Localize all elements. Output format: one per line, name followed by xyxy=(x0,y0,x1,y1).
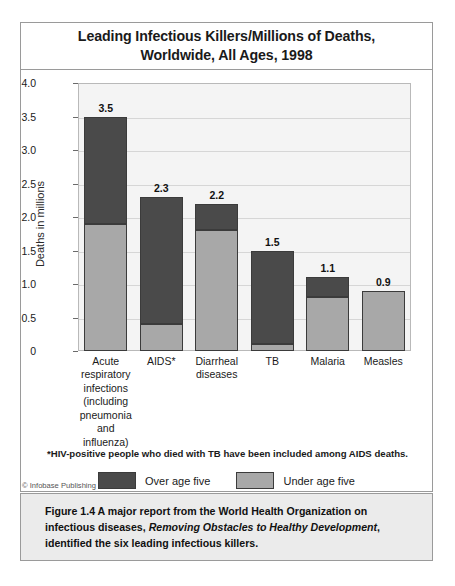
caption-text: Figure 1.4 A major report from the World… xyxy=(45,503,416,551)
y-axis-tick-label: 3.0 xyxy=(0,144,36,156)
y-axis-tick-label: 0 xyxy=(0,345,36,357)
chart-title-line-1: Leading Infectious Killers/Millions of D… xyxy=(78,27,375,46)
bar-segment-under-age-five[interactable] xyxy=(195,230,238,351)
caption-box: Figure 1.4 A major report from the World… xyxy=(20,493,433,561)
legend-item[interactable]: Over age five xyxy=(98,472,210,489)
y-axis-tick-label: 1.0 xyxy=(0,278,36,290)
bar-group[interactable]: 2.3 xyxy=(140,197,183,351)
legend-label: Over age five xyxy=(145,475,210,487)
bar-segment-under-age-five[interactable] xyxy=(140,324,183,351)
x-axis-label-line: TB xyxy=(245,355,301,368)
y-axis-tick-label: 3.5 xyxy=(0,111,36,123)
y-axis-tick-label: 0.5 xyxy=(0,312,36,324)
chart-title: Leading Infectious Killers/Millions of D… xyxy=(70,27,383,64)
bar-value-label: 2.3 xyxy=(154,182,169,194)
y-axis-tick-label: 4.0 xyxy=(0,77,36,89)
bar-segment-under-age-five[interactable] xyxy=(306,297,349,351)
bar-value-label: 1.1 xyxy=(320,262,335,274)
legend-swatch xyxy=(98,472,136,489)
bar-value-label: 1.5 xyxy=(265,236,280,248)
bar-group[interactable]: 0.9 xyxy=(362,291,405,351)
chart-title-line-2: Worldwide, All Ages, 1998 xyxy=(78,46,375,65)
x-axis-label-line: Acute xyxy=(78,355,134,368)
bar-segment-over-age-five[interactable] xyxy=(84,117,127,224)
credit-line: © Infobase Publishing xyxy=(22,481,96,490)
x-axis-category-label: TB xyxy=(245,355,301,368)
bar-group[interactable]: 1.1 xyxy=(306,277,349,351)
bar-segment-under-age-five[interactable] xyxy=(362,291,405,351)
x-axis-category-label: Malaria xyxy=(300,355,356,368)
bar-value-label: 2.2 xyxy=(209,189,224,201)
legend-label: Under age five xyxy=(283,475,355,487)
x-axis-label-line: pneumonia xyxy=(78,409,134,422)
x-axis-label-line: (including xyxy=(78,395,134,408)
bar-group[interactable]: 3.5 xyxy=(84,117,127,352)
x-axis-category-label: Measles xyxy=(356,355,412,368)
y-axis-tick-label: 2.0 xyxy=(0,211,36,223)
bar-group[interactable]: 1.5 xyxy=(251,251,294,352)
chart-footnote: *HIV-positive people who died with TB ha… xyxy=(33,448,422,459)
caption-figure-number: Figure 1.4 xyxy=(45,505,95,517)
caption-book-title: Removing Obstacles to Healthy Developmen… xyxy=(149,521,377,533)
bar-value-label: 3.5 xyxy=(98,102,113,114)
x-axis-label-line: diseases xyxy=(189,368,245,381)
x-axis-label-line: Measles xyxy=(356,355,412,368)
legend-item[interactable]: Under age five xyxy=(236,472,355,489)
bars-layer: 3.52.32.21.51.10.9 xyxy=(78,83,411,351)
x-axis-label-line: Diarrheal xyxy=(189,355,245,368)
x-axis-category-label: Diarrhealdiseases xyxy=(189,355,245,382)
y-axis-tick-label: 1.5 xyxy=(0,245,36,257)
y-axis-tick-label: 2.5 xyxy=(0,178,36,190)
x-axis-label-line: and influenza) xyxy=(78,422,134,449)
bar-segment-under-age-five[interactable] xyxy=(251,344,294,351)
bar-segment-over-age-five[interactable] xyxy=(251,251,294,345)
bar-value-label: 0.9 xyxy=(376,276,391,288)
chart-title-band: Leading Infectious Killers/Millions of D… xyxy=(21,23,432,70)
bar-segment-under-age-five[interactable] xyxy=(84,224,127,351)
legend-swatch xyxy=(236,472,274,489)
x-axis-category-label: AIDS* xyxy=(134,355,190,368)
chart-frame: Leading Infectious Killers/Millions of D… xyxy=(20,22,433,492)
x-axis-label-line: respiratory xyxy=(78,368,134,381)
x-axis-labels: Acuterespiratoryinfections(includingpneu… xyxy=(78,355,411,443)
bar-segment-over-age-five[interactable] xyxy=(195,204,238,231)
y-axis-tick-mark xyxy=(73,351,78,352)
bar-segment-over-age-five[interactable] xyxy=(140,197,183,324)
x-axis-category-label: Acuterespiratoryinfections(includingpneu… xyxy=(78,355,134,449)
chart-body: Deaths in millions 4.03.53.02.52.01.51.0… xyxy=(21,70,432,492)
figure-container: Leading Infectious Killers/Millions of D… xyxy=(0,0,455,586)
x-axis-label-line: infections xyxy=(78,382,134,395)
bar-segment-over-age-five[interactable] xyxy=(306,277,349,297)
x-axis-label-line: Malaria xyxy=(300,355,356,368)
bar-group[interactable]: 2.2 xyxy=(195,204,238,351)
x-axis-label-line: AIDS* xyxy=(134,355,190,368)
